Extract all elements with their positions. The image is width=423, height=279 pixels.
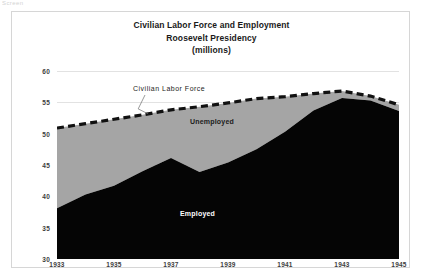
series-label-employed: Employed [180, 210, 215, 217]
x-tick-1937: 1937 [149, 261, 193, 268]
x-tick-1933: 1933 [35, 261, 79, 268]
chart-page: Screen Civilian Labor Force and Employme… [0, 0, 423, 279]
chart-title: Civilian Labor Force and Employment Roos… [12, 19, 411, 57]
y-tick-50: 50 [10, 130, 50, 137]
chart-title-line-2: Roosevelt Presidency [12, 32, 411, 45]
chart-title-line-1: Civilian Labor Force and Employment [12, 19, 411, 32]
clipped-top-text: Screen [2, 0, 46, 7]
series-label-unemployed: Unemployed [190, 118, 234, 125]
x-tick-1941: 1941 [263, 261, 307, 268]
annotation-civilian-labor-force: Civilian Labor Force [133, 85, 205, 92]
chart-title-line-3: (millions) [12, 44, 411, 57]
x-tick-1935: 1935 [92, 261, 136, 268]
x-tick-1939: 1939 [206, 261, 250, 268]
y-tick-45: 45 [10, 162, 50, 169]
y-tick-35: 35 [10, 224, 50, 231]
y-tick-40: 40 [10, 193, 50, 200]
annotation-leader-line [138, 95, 148, 114]
x-tick-1943: 1943 [320, 261, 364, 268]
y-tick-55: 55 [10, 99, 50, 106]
x-tick-1945: 1945 [377, 261, 421, 268]
y-tick-60: 60 [10, 68, 50, 75]
plot-area: 60 55 50 45 40 35 30 1933 1935 1937 1939… [57, 71, 399, 259]
chart-series-svg [57, 71, 399, 259]
chart-container: Civilian Labor Force and Employment Roos… [11, 11, 410, 268]
